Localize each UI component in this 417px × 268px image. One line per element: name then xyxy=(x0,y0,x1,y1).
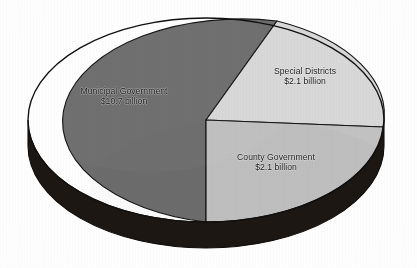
pie-chart-svg xyxy=(0,0,417,268)
pie-chart-figure: Municipal Government $10.7 billion Speci… xyxy=(0,0,417,268)
